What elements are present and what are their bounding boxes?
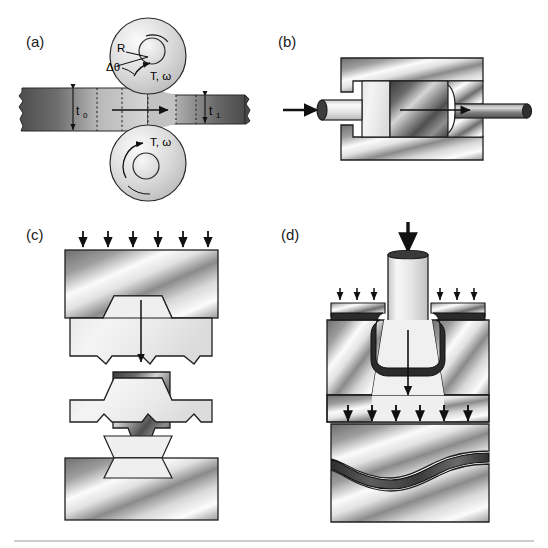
dimension-t0-subscript: 0 <box>83 111 88 120</box>
forging-lower-cavity-stub <box>104 458 172 478</box>
deep-drawing-punch-top-face <box>388 251 428 259</box>
extrusion-ram-shaft-end <box>317 100 327 120</box>
extrusion-ram-head <box>362 81 390 137</box>
panel-d-label: (d) <box>281 226 299 243</box>
bite-angle-label: Δθ <box>106 61 120 73</box>
extrusion-ram-shaft <box>322 100 362 120</box>
dimension-t1-subscript: 1 <box>216 111 221 120</box>
panel-a-label: (a) <box>26 33 44 50</box>
forging-upper-die-cavity <box>103 296 172 318</box>
bottom-roller-hub <box>133 153 159 179</box>
roll-radius-label: R <box>117 42 125 54</box>
figure-root: (a) t 0 t 1 R Δθ <box>0 0 548 548</box>
top-roller-torque-label: T, ω <box>150 70 171 82</box>
strip-exit-torn-edge <box>245 95 250 124</box>
extrusion-billet <box>390 81 448 137</box>
extrusion-product-bar <box>455 104 527 118</box>
drawing-die-base-cavity <box>372 395 444 422</box>
forging-lower-die-cavity <box>104 436 172 458</box>
extrusion-product-bar-end <box>523 104 532 118</box>
forming-processes-figure: (a) t 0 t 1 R Δθ <box>0 0 548 548</box>
panel-c-label: (c) <box>26 226 44 243</box>
panel-b-label: (b) <box>278 33 296 50</box>
bottom-roller-torque-label: T, ω <box>150 136 171 148</box>
top-roller-hub <box>139 38 165 64</box>
